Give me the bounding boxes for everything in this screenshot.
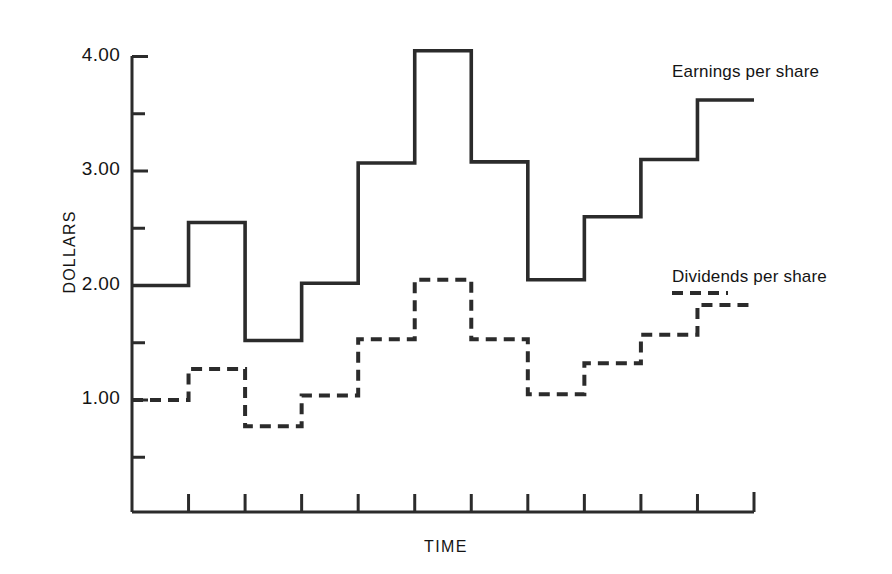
y-axis-ticks bbox=[132, 57, 148, 458]
y-tick-label-3: 3.00 bbox=[40, 158, 120, 180]
series-label-earnings: Earnings per share bbox=[672, 62, 819, 82]
axis-lines bbox=[132, 56, 754, 512]
y-tick-label-2: 2.00 bbox=[40, 273, 120, 295]
series-line-earnings bbox=[132, 51, 754, 341]
x-axis-ticks bbox=[189, 492, 754, 512]
step-chart-figure: 4.00 3.00 2.00 1.00 DOLLARS TIME Earning… bbox=[0, 0, 892, 574]
y-axis-title: DOLLARS bbox=[61, 192, 79, 312]
y-tick-label-1: 1.00 bbox=[40, 387, 120, 409]
series-line-dividends bbox=[132, 280, 754, 427]
series-label-dividends: Dividends per share bbox=[672, 267, 827, 287]
y-tick-label-4: 4.00 bbox=[40, 44, 120, 66]
plot-area bbox=[0, 0, 892, 574]
x-axis-title: TIME bbox=[0, 538, 892, 556]
